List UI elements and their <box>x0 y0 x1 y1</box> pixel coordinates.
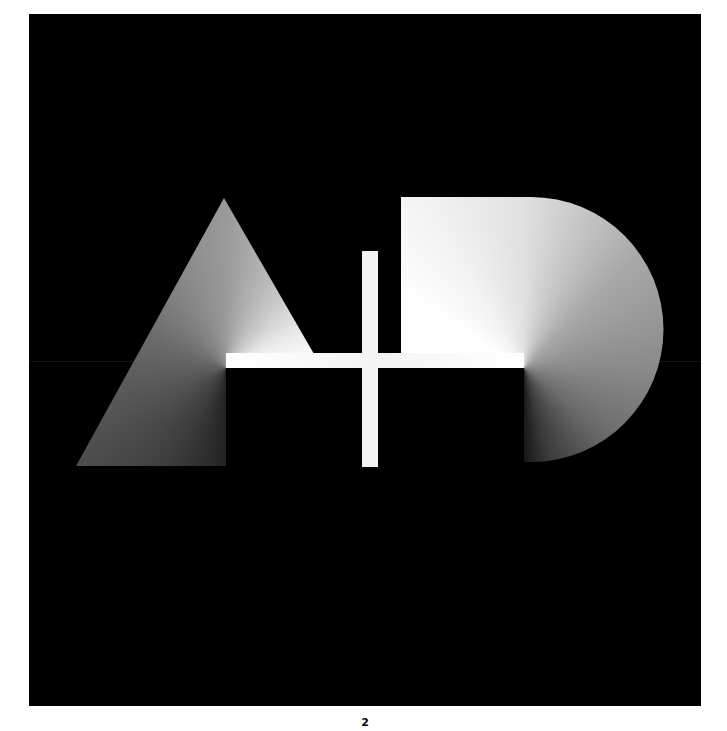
page-number: 2 <box>359 716 371 729</box>
artwork-panel <box>29 14 701 706</box>
plus-vertical-bar <box>362 251 378 467</box>
